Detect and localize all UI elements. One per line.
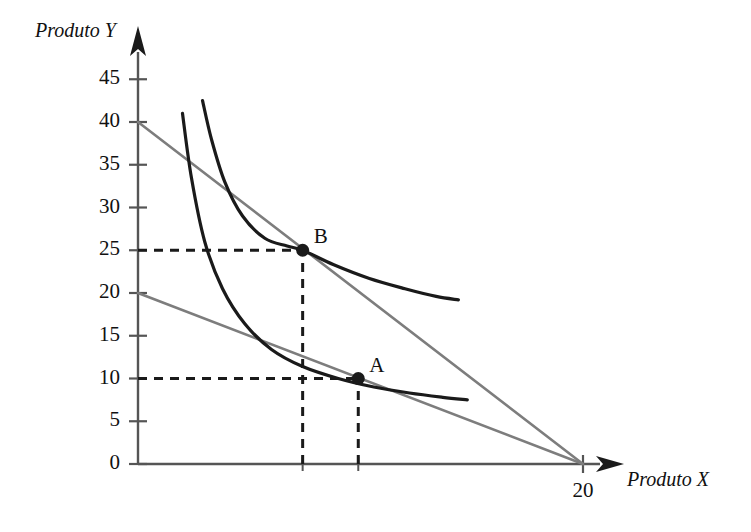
guide-lines-group [138, 250, 358, 464]
y-tick-label: 40 [80, 108, 120, 133]
data-point-b [296, 244, 309, 257]
y-axis-title: Produto Y [35, 19, 116, 42]
x-axis-title: Produto X [627, 468, 709, 491]
indifference-curve-1 [183, 113, 468, 399]
x-tick-label: 20 [563, 478, 603, 503]
y-tick-label: 10 [80, 365, 120, 390]
y-tick-label: 20 [80, 279, 120, 304]
point-label-a: A [369, 353, 384, 378]
y-tick-label: 25 [80, 236, 120, 261]
economics-indifference-chart: Produto Y Produto X 051015202530354045 2… [0, 0, 751, 532]
y-axis-arrow-icon [130, 26, 146, 56]
budget-line-2 [138, 122, 583, 464]
data-point-a [352, 372, 365, 385]
y-tick-label: 5 [80, 407, 120, 432]
y-tick-label: 35 [80, 151, 120, 176]
point-label-b: B [314, 224, 328, 249]
y-tick-label: 45 [80, 65, 120, 90]
budget-lines-group [138, 122, 583, 464]
y-tick-label: 30 [80, 194, 120, 219]
y-tick-label: 0 [80, 450, 120, 475]
x-axis-arrow-icon [596, 456, 624, 472]
y-tick-label: 15 [80, 322, 120, 347]
